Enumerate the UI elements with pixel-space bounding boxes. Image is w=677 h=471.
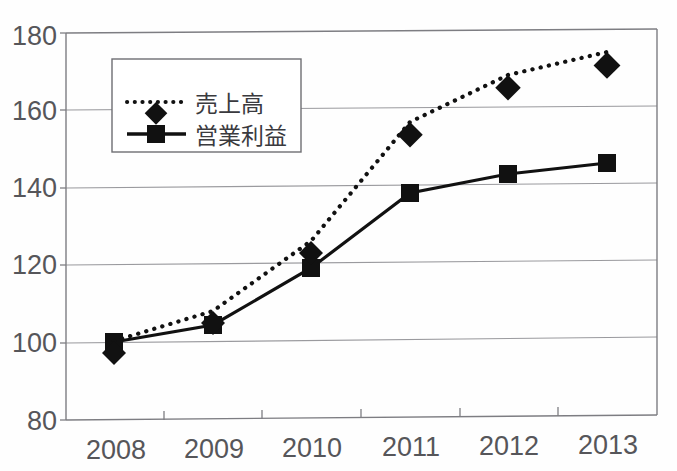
square-marker-icon	[147, 125, 165, 143]
chart-canvas: 180 160 140 120 100 80	[0, 0, 677, 471]
gridline-140	[66, 183, 657, 188]
data-point-marker	[397, 122, 422, 147]
chart-legend: 売上高 営業利益	[112, 59, 301, 152]
x-tick-label: 2009	[184, 434, 244, 464]
y-tick-label: 120	[12, 250, 57, 280]
data-point-marker	[598, 154, 616, 172]
data-point-marker	[401, 184, 419, 202]
y-tick-label: 80	[27, 406, 57, 436]
legend-label-operating-profit: 営業利益	[195, 123, 287, 149]
x-tick-label: 2012	[479, 431, 539, 461]
x-tick-label: 2008	[86, 435, 146, 465]
y-tick-label: 160	[12, 96, 57, 126]
x-tick-label: 2010	[282, 433, 342, 463]
x-axis-tick-labels: 2008 2009 2010 2011 2012 2013	[86, 430, 638, 465]
y-axis-ticks	[60, 33, 66, 420]
series-line-operating-profit	[114, 163, 607, 342]
y-tick-label: 140	[12, 173, 57, 203]
y-axis-tick-labels: 180 160 140 120 100 80	[12, 21, 57, 436]
legend-label-sales: 売上高	[195, 91, 264, 117]
x-tick-label: 2011	[382, 432, 440, 462]
gridline-100	[66, 337, 657, 343]
x-tick-label: 2013	[578, 430, 638, 460]
y-tick-label: 100	[12, 328, 57, 358]
data-point-marker	[499, 165, 517, 183]
line-chart: 180 160 140 120 100 80	[0, 0, 677, 471]
frame-top	[66, 29, 657, 33]
gridline-120	[66, 260, 657, 265]
y-tick-label: 180	[12, 21, 57, 51]
